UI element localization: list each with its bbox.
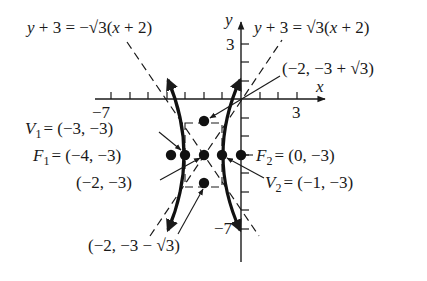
box-bottom-point [199, 178, 209, 188]
y-tick-label-neg7: −7 [214, 219, 233, 238]
hyperbola-figure: x y −7 3 3 −7 y + 3 = −√3(x + 2) y + 3 =… [0, 0, 427, 281]
y-axis-label: y [223, 10, 233, 29]
y-tick-label-3: 3 [226, 35, 235, 54]
pointer-center [160, 158, 200, 180]
pointer-v1 [159, 132, 181, 150]
vertex-v1-label: V1= (−3, −3) [25, 119, 113, 141]
asymptote-label-positive: y + 3 = √3(x + 2) [252, 18, 370, 37]
asymptote-positive-slope [150, 40, 282, 236]
y-axis [241, 22, 249, 262]
center-label: (−2, −3) [76, 173, 132, 192]
vertex-v2-label: V2= (−1, −3) [265, 173, 353, 195]
asymptote-label-negative: y + 3 = −√3(x + 2) [25, 18, 152, 37]
x-axis-label: x [315, 77, 324, 96]
focus-f2-point [236, 150, 246, 160]
box-bottom-label: (−2, −3 − √3) [88, 236, 180, 255]
vertex-v2-point [217, 150, 227, 160]
focus-f1-point [166, 150, 176, 160]
x-tick-label-3: 3 [292, 103, 301, 122]
focus-f2-label: F2= (0, −3) [255, 146, 335, 168]
x-axis [95, 92, 325, 99]
vertex-v1-point [180, 150, 190, 160]
center-point [199, 150, 209, 160]
pointer-box-top [210, 76, 280, 118]
box-top-point [199, 116, 209, 126]
pointer-box-bottom [178, 189, 203, 234]
x-axis-ticks [111, 92, 297, 99]
focus-f1-label: F1= (−4, −3) [32, 146, 121, 168]
box-top-label: (−2, −3 + √3) [282, 59, 374, 78]
y-axis-ticks [241, 44, 249, 229]
